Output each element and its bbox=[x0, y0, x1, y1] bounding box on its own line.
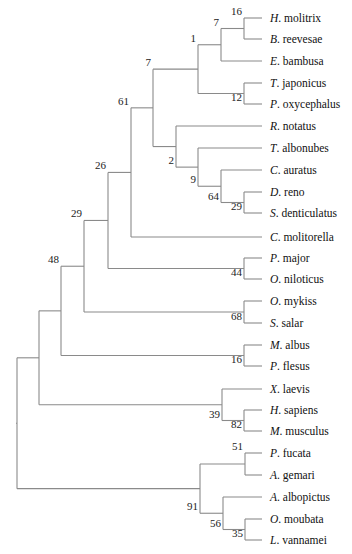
support-value: 48 bbox=[48, 253, 60, 265]
support-value: 9 bbox=[191, 173, 197, 185]
species-name: auratus bbox=[283, 164, 317, 176]
species-name: japonicus bbox=[281, 77, 327, 90]
taxon-label: X. laevis bbox=[269, 383, 310, 395]
taxon-label: T. albonubes bbox=[270, 142, 329, 154]
species-name: oxycephalus bbox=[283, 98, 341, 111]
support-value: 29 bbox=[231, 200, 243, 212]
genus-abbrev: P bbox=[269, 98, 277, 110]
species-name: flesus bbox=[283, 360, 310, 372]
taxon-label: P. oxycephalus bbox=[269, 98, 341, 111]
genus-abbrev: B bbox=[270, 33, 277, 45]
tree-branches bbox=[16, 18, 262, 540]
species-name: molitorella bbox=[283, 231, 333, 243]
support-value: 68 bbox=[231, 310, 243, 322]
species-name: major bbox=[283, 252, 310, 265]
species-name: gemari bbox=[283, 469, 315, 482]
support-value: 56 bbox=[210, 517, 222, 529]
genus-abbrev: P bbox=[269, 252, 277, 264]
bootstrap-support-values: 167121296492761442668291648823951355691 bbox=[48, 5, 244, 539]
species-name: niloticus bbox=[284, 273, 324, 285]
taxon-labels: H. molitrixB. reevesaeE. bambusaT. japon… bbox=[269, 12, 341, 546]
species-name: musculus bbox=[285, 425, 329, 437]
species-name: mykiss bbox=[284, 295, 317, 308]
genus-abbrev: P bbox=[269, 447, 277, 459]
taxon-label: H. sapiens bbox=[269, 404, 318, 417]
support-value: 7 bbox=[214, 16, 220, 28]
species-name: denticulatus bbox=[282, 207, 338, 219]
taxon-label: S. salar bbox=[270, 317, 303, 329]
genus-abbrev: P bbox=[269, 360, 277, 372]
taxon-label: A. albopictus bbox=[269, 491, 331, 504]
taxon-label: B. reevesae bbox=[270, 33, 322, 45]
support-value: 51 bbox=[232, 440, 243, 452]
taxon-label: L. vannamei bbox=[269, 534, 327, 546]
species-name: albonubes bbox=[282, 142, 329, 154]
support-value: 2 bbox=[169, 154, 175, 166]
support-value: 1 bbox=[191, 32, 197, 44]
species-name: albopictus bbox=[283, 491, 331, 504]
species-name: salar bbox=[282, 317, 304, 329]
support-value: 91 bbox=[187, 500, 198, 512]
taxon-label: M. albus bbox=[269, 339, 310, 351]
support-value: 16 bbox=[231, 5, 243, 17]
genus-abbrev: E bbox=[269, 55, 277, 67]
species-name: reno bbox=[284, 186, 305, 198]
species-name: reevesae bbox=[283, 33, 323, 45]
support-value: 61 bbox=[118, 95, 129, 107]
taxon-label: R. notatus bbox=[269, 120, 317, 132]
genus-abbrev: L bbox=[269, 534, 276, 546]
taxon-label: M. musculus bbox=[269, 425, 329, 437]
support-value: 39 bbox=[209, 408, 221, 420]
species-name: molitrix bbox=[284, 12, 321, 24]
taxon-label: S. denticulatus bbox=[270, 207, 338, 219]
taxon-label: O. niloticus bbox=[270, 273, 324, 285]
taxon-label: A. gemari bbox=[269, 469, 315, 482]
species-name: albus bbox=[285, 339, 310, 351]
species-name: bambusa bbox=[283, 55, 324, 67]
species-name: fucata bbox=[283, 447, 311, 459]
species-name: vannamei bbox=[282, 534, 327, 546]
taxon-label: O. mykiss bbox=[270, 295, 317, 308]
support-value: 16 bbox=[231, 353, 243, 365]
taxon-label: E. bambusa bbox=[269, 55, 324, 67]
genus-abbrev: R bbox=[269, 120, 277, 132]
support-value: 26 bbox=[95, 159, 107, 171]
support-value: 82 bbox=[231, 418, 242, 430]
species-name: sapiens bbox=[284, 404, 318, 417]
phylogenetic-tree: 167121296492761442668291648823951355691 … bbox=[0, 0, 352, 554]
support-value: 64 bbox=[208, 190, 220, 202]
support-value: 44 bbox=[231, 266, 243, 278]
taxon-label: D. reno bbox=[269, 186, 305, 198]
support-value: 35 bbox=[232, 527, 244, 539]
taxon-label: C. molitorella bbox=[270, 231, 334, 243]
support-value: 12 bbox=[231, 91, 242, 103]
species-name: laevis bbox=[283, 383, 310, 395]
taxon-label: T. japonicus bbox=[270, 77, 327, 90]
taxon-label: P. major bbox=[269, 252, 310, 265]
taxon-label: C. auratus bbox=[270, 164, 317, 176]
support-value: 29 bbox=[71, 207, 83, 219]
species-name: moubata bbox=[284, 513, 324, 525]
taxon-label: H. molitrix bbox=[269, 12, 321, 24]
support-value: 7 bbox=[146, 56, 152, 68]
taxon-label: O. moubata bbox=[270, 513, 324, 525]
species-name: notatus bbox=[283, 120, 317, 132]
taxon-label: P. flesus bbox=[269, 360, 310, 372]
taxon-label: P. fucata bbox=[269, 447, 311, 459]
